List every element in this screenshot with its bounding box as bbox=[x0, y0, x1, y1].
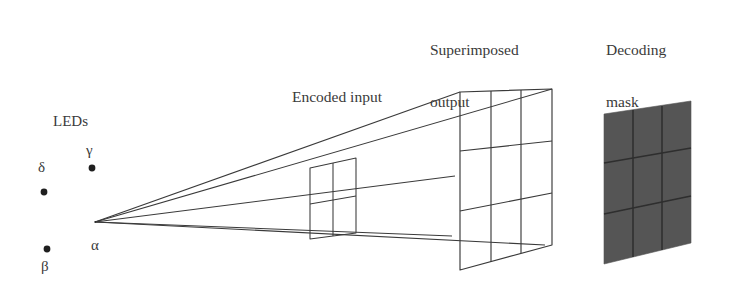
led-dot-gamma bbox=[89, 165, 96, 172]
encoded-input-label: Encoded input bbox=[292, 88, 382, 105]
decoding-mask-label-line2: mask bbox=[606, 93, 666, 110]
superimposed-output-label-line1: Superimposed bbox=[430, 41, 519, 58]
led-label-delta: δ bbox=[38, 159, 45, 176]
ray-apex-to-top-left bbox=[95, 92, 460, 222]
led-dot-delta bbox=[41, 189, 48, 196]
led-dot-alpha bbox=[94, 221, 96, 223]
optical-encoding-diagram: Superimposed output Decoding mask Encode… bbox=[0, 0, 733, 293]
ray-apex-to-mid bbox=[95, 176, 455, 222]
superimposed-output-label-line2: output bbox=[430, 93, 519, 110]
decoding-mask-label-line1: Decoding bbox=[606, 41, 666, 58]
superimposed-output-label: Superimposed output bbox=[430, 6, 519, 145]
led-dots bbox=[41, 165, 96, 253]
decoding-mask-label: Decoding mask bbox=[606, 6, 666, 145]
encoded-input-plane bbox=[310, 158, 356, 239]
led-label-gamma: γ bbox=[86, 142, 93, 159]
ray-apex-to-bottom-right bbox=[95, 222, 545, 245]
led-label-alpha: α bbox=[91, 237, 99, 254]
superimposed-h-divider-2 bbox=[460, 193, 552, 211]
led-label-beta: β bbox=[41, 258, 49, 275]
led-dot-beta bbox=[44, 246, 51, 253]
leds-label: LEDs bbox=[53, 113, 88, 130]
ray-apex-to-bottom-left bbox=[95, 222, 452, 236]
